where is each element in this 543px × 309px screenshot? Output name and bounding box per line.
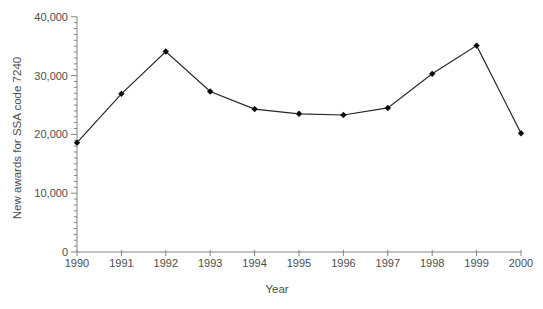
x-tick-label: 1990 [65, 257, 89, 269]
x-tick-label: 1997 [376, 257, 400, 269]
data-point-marker [473, 42, 479, 48]
x-tick-label: 1996 [331, 257, 355, 269]
y-tick-label: 30,000 [34, 70, 68, 82]
data-point-marker [518, 130, 524, 136]
line-chart: New awards for SSA code 7240 Year 010,00… [0, 0, 543, 309]
data-line [77, 46, 521, 143]
x-tick-label: 1993 [198, 257, 222, 269]
y-tick-label: 40,000 [34, 11, 68, 23]
x-tick-label: 1998 [420, 257, 444, 269]
x-tick-label: 1992 [154, 257, 178, 269]
x-tick-label: 2000 [509, 257, 533, 269]
data-point-marker [251, 106, 257, 112]
x-axis-title: Year [265, 283, 288, 295]
data-point-marker [296, 111, 302, 117]
y-axis-title: New awards for SSA code 7240 [11, 57, 23, 219]
data-point-marker [340, 112, 346, 118]
y-tick-label: 20,000 [34, 128, 68, 140]
x-tick-label: 1994 [242, 257, 266, 269]
line-chart-figure: New awards for SSA code 7240 Year 010,00… [0, 0, 543, 309]
plot-area: 010,00020,00030,00040,000199019911992199… [34, 11, 533, 269]
y-tick-label: 10,000 [34, 187, 68, 199]
x-tick-label: 1999 [464, 257, 488, 269]
x-tick-label: 1991 [109, 257, 133, 269]
x-tick-label: 1995 [287, 257, 311, 269]
